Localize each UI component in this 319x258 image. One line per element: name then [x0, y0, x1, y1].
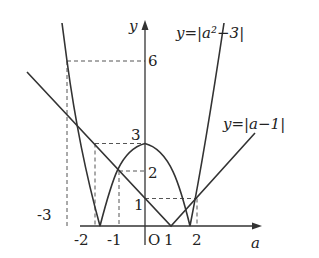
tick-label-neg2: -2 [74, 231, 89, 249]
function-graph: -3 -2 -1 O 1 2 1 2 3 6 y a y=|a²−3| y=|a… [0, 0, 319, 258]
tick-label-neg1: -1 [107, 231, 122, 249]
curve-label-abs-linear: y=|a−1| [222, 115, 285, 133]
y-axis-arrow-icon [142, 20, 149, 30]
origin-label: O [148, 231, 160, 249]
curve-label-abs-quadratic: y=|a²−3| [175, 24, 244, 42]
tick-label-y1: 1 [134, 196, 144, 214]
tick-label-1: 1 [164, 231, 174, 249]
tick-label-neg3: -3 [37, 206, 52, 224]
tick-label-y3: 3 [131, 126, 141, 144]
tick-label-y6: 6 [148, 52, 158, 70]
x-axis-arrow-icon [252, 223, 262, 230]
y-axis-label: y [128, 17, 138, 35]
tick-label-2: 2 [192, 231, 202, 249]
tick-label-y2: 2 [148, 164, 158, 182]
x-axis-label: a [251, 234, 260, 252]
